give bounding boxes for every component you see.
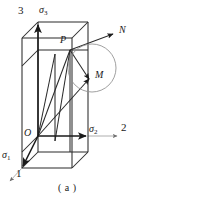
box-mid-left-diagonal — [22, 50, 38, 66]
sigma-2-subscript: 2 — [94, 128, 98, 136]
construction-lines — [38, 34, 113, 152]
sigma-3-subscript: 3 — [44, 9, 48, 17]
stress-space-diagram-svg — [0, 0, 206, 205]
box-edge-top-right-diagonal — [72, 22, 88, 38]
box-edge-bottom-left-diagonal — [22, 152, 38, 168]
point-P-label: P — [60, 35, 66, 45]
axis-2-number-label: 2 — [121, 122, 127, 133]
axis-3-number-label: 3 — [18, 5, 24, 16]
point-M-label: M — [95, 70, 103, 80]
line-P-to-inner-base — [55, 50, 70, 141]
line-P-to-N-normal — [70, 34, 113, 50]
axis-1-number-label: 1 — [16, 168, 22, 179]
axis-3-stress-label: σ3 — [39, 5, 47, 15]
box-edge-bottom-right-diagonal — [72, 152, 88, 168]
line-O-to-P — [38, 50, 70, 136]
normal-N-label: N — [119, 25, 126, 35]
deviatoric-circle — [68, 44, 116, 92]
axis-1-arrow — [23, 136, 38, 166]
axis-1-stress-label: σ1 — [2, 150, 10, 160]
line-O-to-upper-left-inner — [38, 54, 55, 136]
origin-label: O — [24, 128, 31, 138]
line-P-to-M — [70, 50, 89, 79]
figure-container: 3 σ3 2 σ2 1 σ1 O P M N ( a ) — [0, 0, 206, 205]
box-edge-top-left-diagonal — [22, 22, 38, 38]
sigma-1-subscript: 1 — [7, 154, 11, 162]
box-mid-left-diagonal-lower — [22, 136, 38, 152]
figure-caption: ( a ) — [58, 183, 77, 193]
axis-2-stress-label: σ2 — [89, 124, 97, 134]
